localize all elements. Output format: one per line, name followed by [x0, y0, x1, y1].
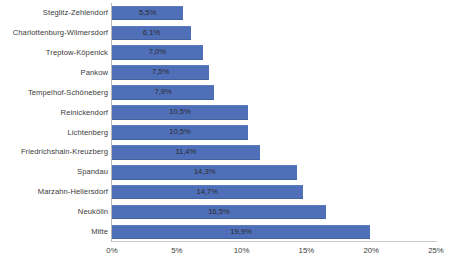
bar-track: 11,4%: [112, 142, 436, 162]
bar-track: 7,9%: [112, 83, 436, 103]
bar-value-label: 7,0%: [112, 45, 203, 60]
x-axis-tick-label: 15%: [286, 244, 326, 257]
bar-row: Friedrichshain-Kreuzberg11,4%: [0, 142, 442, 162]
bar-value-label: 11,4%: [112, 145, 260, 160]
category-label: Lichtenberg: [0, 123, 108, 143]
bar-value-label: 16,5%: [112, 205, 326, 220]
category-label: Tempelhof-Schöneberg: [0, 83, 108, 103]
category-label: Treptow-Köpenick: [0, 43, 108, 63]
x-axis-tick-label: 5%: [157, 244, 197, 257]
bar-track: 7,0%: [112, 43, 436, 63]
category-label: Pankow: [0, 63, 108, 83]
bar-row: Lichtenberg10,5%: [0, 123, 442, 143]
bar-track: 6,1%: [112, 23, 436, 43]
bar-value-label: 7,5%: [112, 65, 209, 80]
x-axis-tick-label: 0%: [92, 244, 132, 257]
bar-row: Pankow7,5%: [0, 63, 442, 83]
bar-row: Treptow-Köpenick7,0%: [0, 43, 442, 63]
category-label: Marzahn-Hellersdorf: [0, 182, 108, 202]
bar-track: 19,9%: [112, 222, 436, 242]
bar-track: 10,5%: [112, 103, 436, 123]
bar-track: 14,7%: [112, 182, 436, 202]
category-label: Mitte: [0, 222, 108, 242]
bar-value-label: 19,9%: [112, 225, 370, 240]
bar-row: Steglitz-Zehlendorf5,5%: [0, 3, 442, 23]
bar-value-label: 10,5%: [112, 105, 248, 120]
bar-row: Mitte19,9%: [0, 222, 442, 242]
bar-row: Reinickendorf10,5%: [0, 103, 442, 123]
category-label: Friedrichshain-Kreuzberg: [0, 142, 108, 162]
category-label: Neukölln: [0, 202, 108, 222]
x-axis-tick-labels: 0%5%10%15%20%25%: [0, 244, 442, 260]
bar-track: 7,5%: [112, 63, 436, 83]
x-axis-tick-label: 25%: [416, 244, 449, 257]
x-axis-tick-label: 20%: [351, 244, 391, 257]
bar-value-label: 14,7%: [112, 185, 303, 200]
bar-row: Charlottenburg-Wilmersdorf6,1%: [0, 23, 442, 43]
bar-track: 16,5%: [112, 202, 436, 222]
category-label: Spandau: [0, 162, 108, 182]
bar-row: Spandau14,3%: [0, 162, 442, 182]
bar-value-label: 14,3%: [112, 165, 297, 180]
bar-track: 5,5%: [112, 3, 436, 23]
category-label: Steglitz-Zehlendorf: [0, 3, 108, 23]
bar-track: 14,3%: [112, 162, 436, 182]
bar-value-label: 10,5%: [112, 125, 248, 140]
bar-value-label: 7,9%: [112, 85, 214, 100]
category-label: Charlottenburg-Wilmersdorf: [0, 23, 108, 43]
x-axis-tick-label: 10%: [222, 244, 262, 257]
bar-row: Marzahn-Hellersdorf14,7%: [0, 182, 442, 202]
bar-track: 10,5%: [112, 123, 436, 143]
bar-value-label: 5,5%: [112, 6, 183, 21]
bar-row: Neukölln16,5%: [0, 202, 442, 222]
bar-value-label: 6,1%: [112, 26, 191, 41]
bar-row: Tempelhof-Schöneberg7,9%: [0, 83, 442, 103]
category-label: Reinickendorf: [0, 103, 108, 123]
